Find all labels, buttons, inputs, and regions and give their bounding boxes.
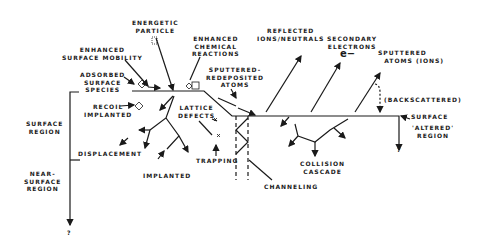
- label-channeling: CHANNELING: [264, 183, 318, 191]
- label-surface: SURFACE: [411, 113, 448, 121]
- label-enhanced-surface-mobility: ENHANCED SURFACE MOBILITY: [62, 46, 143, 61]
- electron-symbol: e−: [340, 50, 355, 58]
- label-sputtered-atoms-ions: SPUTTERED ATOMS (IONS): [378, 49, 444, 64]
- label-implanted: IMPLANTED: [143, 172, 191, 180]
- right-axis-question: ?: [397, 146, 401, 154]
- label-near-surface-region: NEAR- SURFACE REGION: [24, 170, 61, 193]
- label-adsorbed-surface-species: ADSORBED SURFACE SPECIES: [80, 71, 125, 94]
- label-enhanced-chemical-reactions: ENHANCED CHEMICAL REACTIONS: [192, 35, 240, 58]
- label-altered-region: 'ALTERED' REGION: [412, 124, 454, 139]
- label-recoil-implanted: RECOIL IMPLANTED: [84, 103, 132, 118]
- depth-axis-right: [393, 116, 399, 150]
- label-surface-region: SURFACE REGION: [26, 120, 63, 135]
- left-axis-question: ?: [67, 229, 71, 237]
- label-collision-cascade: COLLISION CASCADE: [300, 160, 345, 175]
- label-energetic-particle: ENERGETIC PARTICLE: [132, 19, 179, 34]
- label-backscattered: (BACKSCATTERED): [384, 96, 462, 104]
- label-displacement: DISPLACEMENT: [78, 150, 142, 158]
- label-lattice-defects: LATTICE DEFECTS: [178, 104, 215, 119]
- depth-axis-left: [70, 92, 79, 225]
- label-sputtered-redeposited-atoms: SPUTTERED- REDEPOSITED ATOMS: [206, 66, 264, 89]
- label-reflected-ions-neutrals: REFLECTED IONS/NEUTRALS: [257, 27, 324, 42]
- label-trapping: TRAPPING: [196, 157, 238, 165]
